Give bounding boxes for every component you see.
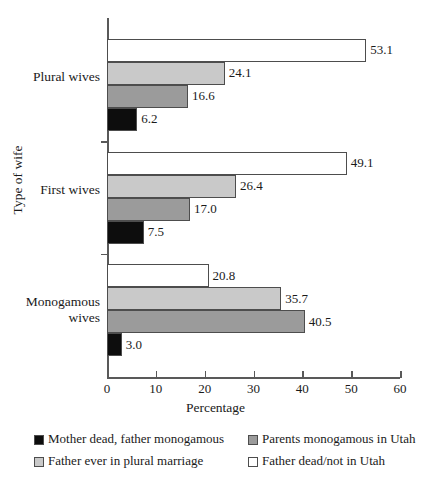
bar[interactable]	[107, 62, 225, 85]
bar-value-label: 3.0	[122, 337, 142, 353]
bar-row: 17.0	[107, 198, 400, 221]
bar[interactable]	[107, 310, 305, 333]
bar-row: 53.1	[107, 39, 400, 62]
legend-item[interactable]: Father ever in plural marriage	[34, 453, 248, 469]
bar-value-label: 26.4	[236, 178, 263, 194]
bar-row: 26.4	[107, 175, 400, 198]
category-label: Monogamous wives	[0, 294, 100, 326]
bar-value-label: 16.6	[188, 88, 215, 104]
legend-item[interactable]: Father dead/not in Utah	[248, 453, 414, 469]
legend-label: Father dead/not in Utah	[262, 453, 385, 469]
legend-label: Mother dead, father monogamous	[48, 431, 224, 447]
y-axis-title: Type of wife	[10, 100, 26, 260]
bar[interactable]	[107, 108, 137, 131]
bar[interactable]	[107, 333, 122, 356]
bar-row: 49.1	[107, 152, 400, 175]
x-tick-label: 30	[234, 381, 274, 397]
bar[interactable]	[107, 287, 281, 310]
x-tick-label: 50	[331, 381, 371, 397]
bar-group: 53.124.116.66.2	[107, 39, 400, 131]
bar-row: 35.7	[107, 287, 400, 310]
x-tick-mark	[400, 371, 402, 378]
x-tick-label: 60	[380, 381, 420, 397]
x-axis-title: Percentage	[0, 400, 431, 416]
legend-swatch-icon	[248, 457, 258, 467]
bar-value-label: 53.1	[366, 42, 393, 58]
x-tick-label: 20	[185, 381, 225, 397]
bars-container: 53.124.116.66.249.126.417.07.520.835.740…	[107, 18, 400, 377]
bar[interactable]	[107, 264, 209, 287]
bar-value-label: 6.2	[137, 111, 157, 127]
legend-label: Parents monogamous in Utah	[262, 431, 415, 447]
legend-item[interactable]: Mother dead, father monogamous	[34, 431, 248, 447]
legend-swatch-icon	[34, 457, 44, 467]
legend-swatch-icon	[34, 435, 44, 445]
bar-row: 3.0	[107, 333, 400, 356]
bar-row: 7.5	[107, 221, 400, 244]
bar-value-label: 49.1	[347, 155, 374, 171]
bar-group: 49.126.417.07.5	[107, 152, 400, 244]
bar[interactable]	[107, 152, 347, 175]
bar[interactable]	[107, 85, 188, 108]
bar-row: 6.2	[107, 108, 400, 131]
bar-row: 16.6	[107, 85, 400, 108]
chart-legend: Mother dead, father monogamousParents mo…	[34, 428, 414, 472]
x-tick-label: 10	[136, 381, 176, 397]
bar-value-label: 20.8	[209, 268, 236, 284]
bar-row: 40.5	[107, 310, 400, 333]
bar-value-label: 35.7	[281, 291, 308, 307]
bar-row: 24.1	[107, 62, 400, 85]
legend-swatch-icon	[248, 435, 258, 445]
bar[interactable]	[107, 221, 144, 244]
category-label: Plural wives	[0, 69, 100, 85]
x-tick-label: 0	[87, 381, 127, 397]
bar-row: 20.8	[107, 264, 400, 287]
bar-group: 20.835.740.53.0	[107, 264, 400, 356]
bar-value-label: 24.1	[225, 65, 252, 81]
bar-chart: 0102030405060 53.124.116.66.249.126.417.…	[0, 0, 431, 491]
bar[interactable]	[107, 198, 190, 221]
bar-value-label: 40.5	[305, 314, 332, 330]
bar-value-label: 17.0	[190, 201, 217, 217]
bar[interactable]	[107, 39, 366, 62]
x-tick-label: 40	[282, 381, 322, 397]
bar[interactable]	[107, 175, 236, 198]
legend-item[interactable]: Parents monogamous in Utah	[248, 431, 414, 447]
legend-label: Father ever in plural marriage	[48, 453, 203, 469]
bar-value-label: 7.5	[144, 224, 164, 240]
